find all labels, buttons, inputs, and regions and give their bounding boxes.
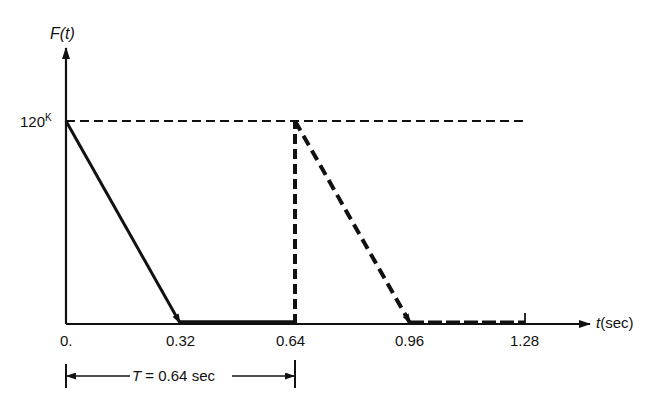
period-var: T <box>132 367 141 384</box>
x-tick-0-96: 0.96 <box>395 332 424 349</box>
y-tick-value: 120 <box>20 113 45 130</box>
y-axis-label: F(t) <box>50 25 75 43</box>
x-tick-0: 0. <box>60 332 73 349</box>
x-tick-0-64: 0.64 <box>276 332 305 349</box>
period-label: T = 0.64 sec <box>132 367 215 384</box>
x-tick-0-32: 0.32 <box>166 332 195 349</box>
y-tick-120: 120K <box>20 112 52 130</box>
period-value: = 0.64 sec <box>141 367 215 384</box>
y-tick-unit: K <box>45 112 52 123</box>
force-time-diagram <box>0 0 658 412</box>
second-pulse-ramp <box>295 121 410 323</box>
x-axis-label: t(sec) <box>596 314 634 331</box>
x-tick-1-28: 1.28 <box>510 332 539 349</box>
first-pulse-ramp <box>66 121 180 323</box>
x-axis-unit: (sec) <box>600 314 633 331</box>
